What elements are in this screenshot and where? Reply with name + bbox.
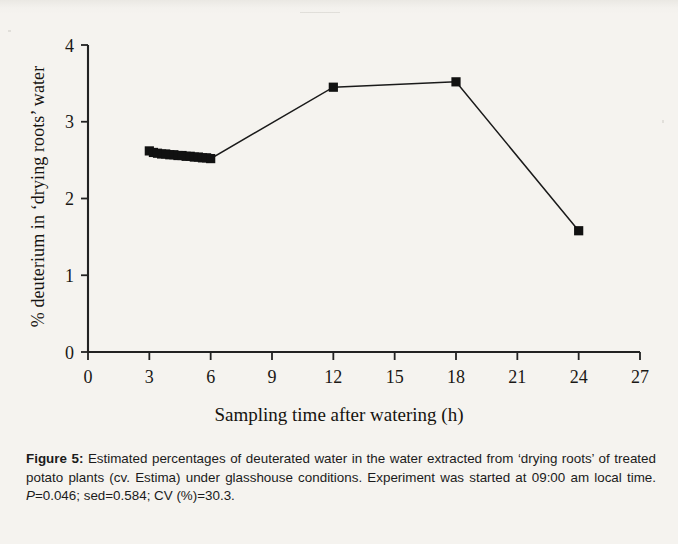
y-tick-group: 01234 <box>65 36 88 363</box>
data-point-marker <box>329 83 338 92</box>
x-tick-label: 24 <box>570 367 588 387</box>
y-axis-title: % deuterium in ‘drying roots’ water <box>28 37 49 357</box>
y-tick-label: 2 <box>65 189 74 209</box>
figure-caption: Figure 5: Estimated percentages of deute… <box>26 450 656 506</box>
y-tick-label: 4 <box>65 36 74 56</box>
x-tick-group: 0369121518212427 <box>84 352 650 387</box>
caption-p-symbol: P <box>26 488 35 503</box>
y-tick-label: 1 <box>65 266 74 286</box>
data-point-marker <box>451 77 460 86</box>
chart-plot-area: 01234 0369121518212427 % deuterium in ‘d… <box>0 0 678 440</box>
x-tick-label: 0 <box>84 367 93 387</box>
figure-page: 01234 0369121518212427 % deuterium in ‘d… <box>0 0 678 544</box>
x-tick-label: 15 <box>386 367 404 387</box>
data-point-marker <box>574 226 583 235</box>
x-tick-label: 27 <box>631 367 649 387</box>
caption-body-2: =0.046; sed=0.584; CV (%)=30.3. <box>35 488 235 503</box>
x-tick-label: 18 <box>447 367 465 387</box>
x-tick-label: 21 <box>508 367 526 387</box>
chart-svg: 01234 0369121518212427 <box>0 0 678 440</box>
x-axis-title: Sampling time after watering (h) <box>0 404 678 426</box>
x-tick-label: 12 <box>324 367 342 387</box>
x-tick-label: 6 <box>206 367 215 387</box>
x-tick-label: 3 <box>145 367 154 387</box>
data-point-marker <box>206 154 215 163</box>
y-tick-label: 3 <box>65 112 74 132</box>
x-tick-label: 9 <box>268 367 277 387</box>
caption-body-1: Estimated percentages of deuterated wate… <box>26 451 656 485</box>
y-tick-label: 0 <box>65 343 74 363</box>
axes-group <box>88 45 640 352</box>
caption-figure-number: Figure 5 <box>26 451 79 466</box>
